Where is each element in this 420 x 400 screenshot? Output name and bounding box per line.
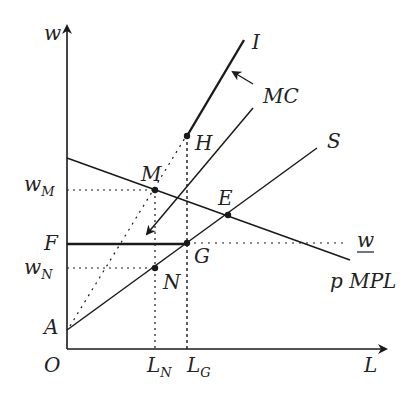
F-label: F [43, 231, 59, 255]
point-M [152, 187, 158, 193]
LN-label: LN [146, 353, 172, 380]
y-axis-label: w [44, 21, 61, 45]
G-label: G [194, 244, 210, 268]
mc-curve [147, 108, 253, 234]
A-label: A [42, 315, 58, 339]
wN-label: wN [24, 255, 53, 282]
E-label: E [217, 186, 233, 210]
N-label: N [162, 270, 182, 294]
pMPL-label: p MPL [330, 269, 396, 293]
min-wage-label: w [357, 228, 374, 252]
dotted-A-to-H [70, 138, 185, 326]
H-label: H [194, 131, 213, 155]
point-N [152, 265, 158, 271]
labor-market-diagram: w L O wM F wN A LN LG I MC S p MPL w M H… [0, 0, 420, 400]
S-label: S [327, 129, 341, 153]
wM-label: wM [24, 172, 55, 199]
LG-label: LG [186, 353, 211, 380]
supply-curve [67, 148, 317, 330]
arrow-to-i [233, 72, 253, 84]
point-H [184, 133, 190, 139]
point-G [184, 240, 190, 246]
I-label: I [251, 30, 261, 54]
M-label: M [140, 162, 162, 186]
x-axis-label: L [363, 353, 377, 377]
i-curve [187, 40, 244, 136]
origin-label: O [44, 353, 60, 377]
MC-label: MC [262, 84, 299, 108]
point-E [225, 212, 231, 218]
